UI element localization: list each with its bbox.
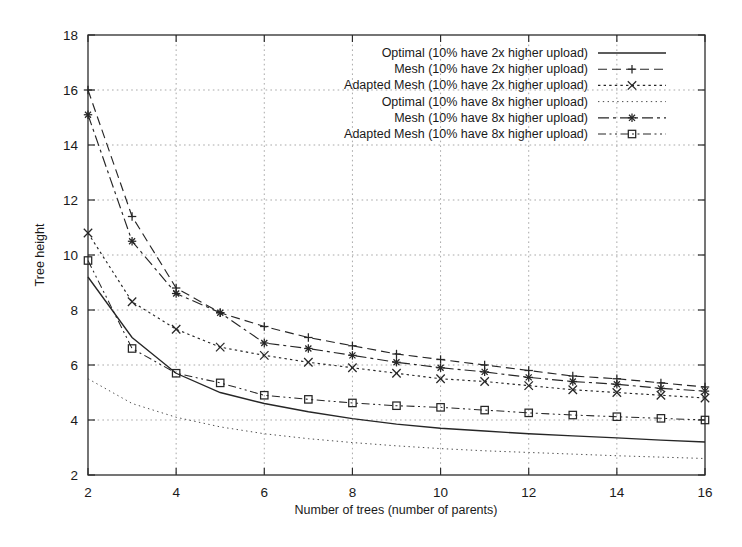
legend-label: Optimal (10% have 8x higher upload) xyxy=(382,95,588,109)
data-point-marker-star xyxy=(628,114,636,122)
data-point-marker-plus xyxy=(348,342,356,350)
series-line xyxy=(88,115,705,391)
data-point-marker-star xyxy=(569,377,577,385)
x-tick-label: 10 xyxy=(433,485,448,500)
data-point-marker-plus xyxy=(304,333,312,341)
x-tick-label: 2 xyxy=(84,485,92,500)
series-5 xyxy=(84,257,708,424)
x-tick-label: 8 xyxy=(349,485,357,500)
y-tick-label: 16 xyxy=(63,83,78,98)
data-point-marker-star xyxy=(84,111,92,119)
data-point-marker-cross xyxy=(216,343,224,351)
data-point-marker-star xyxy=(128,237,136,245)
series-layer xyxy=(84,86,709,459)
data-point-marker-cross xyxy=(392,369,400,377)
legend-label: Mesh (10% have 8x higher upload) xyxy=(394,111,588,125)
y-tick-label: 6 xyxy=(70,358,78,373)
data-point-marker-star xyxy=(657,384,665,392)
data-point-marker-plus xyxy=(628,65,636,73)
data-point-marker-star xyxy=(304,344,312,352)
data-point-marker-star xyxy=(480,368,488,376)
legend-label: Adapted Mesh (10% have 8x higher upload) xyxy=(344,127,588,141)
legend-label: Adapted Mesh (10% have 2x higher upload) xyxy=(344,78,588,92)
data-point-marker-star xyxy=(613,380,621,388)
x-tick-label: 14 xyxy=(609,485,625,500)
data-point-marker-cross xyxy=(628,81,636,89)
legend-label: Optimal (10% have 2x higher upload) xyxy=(382,46,588,60)
data-point-marker-star xyxy=(260,339,268,347)
data-point-marker-star xyxy=(392,358,400,366)
x-tick-labels: 246810121416 xyxy=(84,485,712,500)
y-axis-title: Tree height xyxy=(33,223,47,286)
data-point-marker-plus xyxy=(128,212,136,220)
data-point-marker-star xyxy=(525,373,533,381)
data-point-marker-star xyxy=(216,309,224,317)
y-tick-label: 4 xyxy=(70,413,78,428)
data-point-marker-square xyxy=(217,379,224,386)
y-tick-labels: 24681012141618 xyxy=(63,28,79,483)
x-axis-title: Number of trees (number of parents) xyxy=(295,503,498,517)
data-point-marker-plus xyxy=(392,350,400,358)
series-3 xyxy=(88,379,705,459)
y-tick-label: 2 xyxy=(70,468,78,483)
data-point-marker-plus xyxy=(84,86,92,94)
data-point-marker-cross xyxy=(304,358,312,366)
series-line xyxy=(88,379,705,459)
legend-label: Mesh (10% have 2x higher upload) xyxy=(394,62,588,76)
data-point-marker-star xyxy=(701,387,709,395)
y-tick-label: 12 xyxy=(63,193,78,208)
chart-container: 24681012141618 246810121416 Tree height … xyxy=(0,0,742,547)
data-point-marker-cross xyxy=(128,298,136,306)
y-tick-label: 14 xyxy=(63,138,79,153)
chart-legend: Optimal (10% have 2x higher upload)Mesh … xyxy=(344,46,666,141)
data-point-marker-star xyxy=(348,351,356,359)
y-tick-label: 18 xyxy=(63,28,78,43)
y-tick-label: 10 xyxy=(63,248,78,263)
data-point-marker-star xyxy=(436,364,444,372)
data-point-marker-square xyxy=(128,345,135,352)
chart-svg: 24681012141618 246810121416 Tree height … xyxy=(0,0,742,547)
y-tick-label: 8 xyxy=(70,303,78,318)
x-tick-label: 12 xyxy=(521,485,536,500)
data-point-marker-plus xyxy=(260,322,268,330)
data-point-marker-cross xyxy=(172,325,180,333)
data-point-marker-plus xyxy=(436,355,444,363)
data-point-marker-star xyxy=(172,289,180,297)
x-tick-label: 16 xyxy=(697,485,712,500)
x-tick-label: 6 xyxy=(261,485,269,500)
data-point-marker-cross xyxy=(480,377,488,385)
x-tick-label: 4 xyxy=(172,485,180,500)
